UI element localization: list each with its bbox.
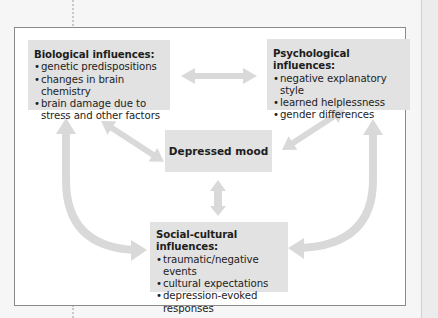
biological-influences-box: Biological influences: genetic predispos… bbox=[28, 40, 170, 110]
depressed-mood-label: Depressed mood bbox=[169, 145, 268, 157]
list-item: negative explanatory style bbox=[273, 73, 410, 98]
psychological-influences-box: Psychological influences: negative expla… bbox=[267, 39, 410, 110]
list-item: cultural expectations bbox=[156, 278, 288, 290]
biological-list: genetic predispositions changes in brain… bbox=[34, 61, 170, 122]
depressed-mood-box: Depressed mood bbox=[165, 130, 272, 172]
arrow-mood-social-icon bbox=[210, 180, 226, 216]
list-item: traumatic/negative events bbox=[156, 254, 288, 279]
arrow-bio-psych-icon bbox=[181, 68, 257, 84]
social-cultural-title: Social-cultural influences: bbox=[156, 229, 288, 254]
social-cultural-list: traumatic/negative events cultural expec… bbox=[156, 254, 288, 315]
list-item: gender differences bbox=[273, 109, 410, 121]
list-item: learned helplessness bbox=[273, 97, 410, 109]
list-item: brain damage due to stress and other fac… bbox=[34, 98, 169, 123]
list-item: changes in brain chemistry bbox=[34, 74, 170, 99]
psychological-list: negative explanatory style learned helpl… bbox=[273, 73, 410, 122]
social-cultural-influences-box: Social-cultural influences: traumatic/ne… bbox=[150, 222, 288, 292]
list-item: genetic predispositions bbox=[34, 61, 170, 73]
biological-title: Biological influences: bbox=[34, 49, 170, 61]
psychological-title: Psychological influences: bbox=[273, 48, 410, 73]
list-item: depression-evoked responses bbox=[156, 290, 273, 315]
